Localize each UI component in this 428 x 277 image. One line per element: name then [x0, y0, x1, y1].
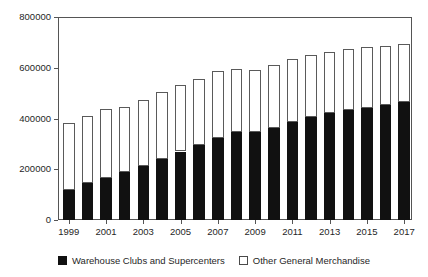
- bar-2013: [324, 52, 336, 220]
- bar-segment-other-general-merchandise: [119, 107, 131, 172]
- bar-2011: [287, 59, 299, 220]
- y-tick-label: 200000: [19, 163, 51, 174]
- bar-2005: [175, 85, 187, 221]
- bar-segment-warehouse-clubs-and-supercenters: [212, 138, 224, 220]
- x-axis: 1999200120032005200720092011201320152017: [58, 220, 412, 246]
- bar-segment-other-general-merchandise: [100, 109, 112, 178]
- x-tick-label: 2011: [282, 226, 302, 237]
- x-tick-mark: [69, 220, 70, 224]
- bar-segment-other-general-merchandise: [268, 65, 280, 128]
- x-tick-mark: [218, 220, 219, 224]
- bar-2017: [398, 44, 410, 220]
- legend-label-warehouse: Warehouse Clubs and Supercenters: [72, 255, 225, 266]
- bar-2003: [138, 100, 150, 220]
- bar-1999: [63, 123, 75, 220]
- x-tick-mark: [255, 220, 256, 224]
- legend-entry-warehouse: Warehouse Clubs and Supercenters: [58, 255, 225, 266]
- bar-2001: [100, 109, 112, 220]
- bar-segment-warehouse-clubs-and-supercenters: [231, 132, 243, 220]
- bar-2008: [231, 69, 243, 220]
- bar-2002: [119, 107, 131, 220]
- bar-2004: [156, 92, 168, 220]
- bar-segment-other-general-merchandise: [156, 92, 168, 159]
- x-tick-mark: [367, 220, 368, 224]
- y-axis: 0200000400000600000800000: [0, 17, 58, 220]
- y-tick-label: 600000: [19, 62, 51, 73]
- bar-segment-warehouse-clubs-and-supercenters: [156, 159, 168, 220]
- filled-square-icon: [58, 256, 67, 265]
- cropped-title-strip: [0, 0, 428, 9]
- bar-2015: [361, 47, 373, 220]
- bar-segment-other-general-merchandise: [82, 116, 94, 183]
- y-tick-label: 0: [46, 214, 51, 225]
- x-tick-mark: [181, 220, 182, 224]
- bar-segment-other-general-merchandise: [249, 70, 261, 132]
- bar-segment-warehouse-clubs-and-supercenters: [324, 113, 336, 220]
- bar-segment-other-general-merchandise: [193, 79, 205, 145]
- bar-2016: [380, 46, 392, 220]
- bar-2000: [82, 116, 94, 220]
- bar-segment-other-general-merchandise: [138, 100, 150, 166]
- bar-segment-warehouse-clubs-and-supercenters: [82, 183, 94, 220]
- x-tick-mark: [143, 220, 144, 224]
- bar-segment-warehouse-clubs-and-supercenters: [100, 178, 112, 220]
- bar-segment-warehouse-clubs-and-supercenters: [138, 166, 150, 220]
- bar-segment-other-general-merchandise: [212, 71, 224, 137]
- bar-segment-warehouse-clubs-and-supercenters: [249, 132, 261, 220]
- bar-segment-other-general-merchandise: [63, 123, 75, 189]
- bar-segment-warehouse-clubs-and-supercenters: [175, 152, 187, 221]
- x-tick-label: 2003: [133, 226, 154, 237]
- bar-2012: [305, 55, 317, 220]
- bar-segment-other-general-merchandise: [324, 52, 336, 114]
- bar-segment-other-general-merchandise: [380, 46, 392, 105]
- bar-segment-other-general-merchandise: [231, 69, 243, 132]
- x-tick-mark: [330, 220, 331, 224]
- bar-segment-warehouse-clubs-and-supercenters: [361, 108, 373, 220]
- bar-segment-warehouse-clubs-and-supercenters: [343, 110, 355, 220]
- chart-figure: 0200000400000600000800000 19992001200320…: [0, 0, 428, 277]
- bar-segment-warehouse-clubs-and-supercenters: [63, 190, 75, 220]
- bars-layer: [58, 17, 412, 220]
- x-tick-label: 2001: [96, 226, 117, 237]
- x-tick-label: 2017: [394, 226, 415, 237]
- bar-2009: [249, 70, 261, 220]
- legend-entry-other: Other General Merchandise: [239, 255, 370, 266]
- x-tick-label: 2015: [356, 226, 377, 237]
- x-tick-mark: [106, 220, 107, 224]
- bar-2007: [212, 71, 224, 220]
- bar-segment-other-general-merchandise: [398, 44, 410, 102]
- x-tick-mark: [404, 220, 405, 224]
- bar-2014: [343, 49, 355, 220]
- chart-legend: Warehouse Clubs and Supercenters Other G…: [0, 252, 428, 268]
- bar-segment-warehouse-clubs-and-supercenters: [193, 145, 205, 220]
- y-tick-label: 400000: [19, 113, 51, 124]
- bar-segment-other-general-merchandise: [361, 47, 373, 107]
- bar-segment-other-general-merchandise: [305, 55, 317, 117]
- legend-label-other: Other General Merchandise: [253, 255, 370, 266]
- x-tick-mark: [292, 220, 293, 224]
- y-tick-label: 800000: [19, 11, 51, 22]
- bar-segment-warehouse-clubs-and-supercenters: [287, 122, 299, 220]
- bar-segment-other-general-merchandise: [287, 59, 299, 122]
- bar-segment-warehouse-clubs-and-supercenters: [268, 128, 280, 220]
- bar-2006: [193, 79, 205, 220]
- x-tick-label: 2009: [245, 226, 266, 237]
- x-tick-label: 2007: [207, 226, 228, 237]
- bar-segment-other-general-merchandise: [175, 85, 187, 152]
- x-tick-label: 2005: [170, 226, 191, 237]
- bar-segment-warehouse-clubs-and-supercenters: [380, 105, 392, 220]
- bar-segment-warehouse-clubs-and-supercenters: [398, 102, 410, 220]
- bar-segment-other-general-merchandise: [343, 49, 355, 110]
- bar-segment-warehouse-clubs-and-supercenters: [305, 117, 317, 220]
- hollow-square-icon: [239, 256, 248, 265]
- x-tick-label: 2013: [319, 226, 340, 237]
- bar-segment-warehouse-clubs-and-supercenters: [119, 172, 131, 220]
- x-tick-label: 1999: [58, 226, 79, 237]
- bar-2010: [268, 65, 280, 220]
